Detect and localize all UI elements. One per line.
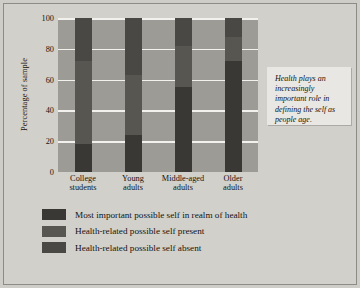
- x-axis-label: Olderadults: [208, 174, 258, 192]
- chart-legend: Most important possible self in realm of…: [42, 209, 342, 259]
- y-axis-title: Percentage of sample: [16, 14, 32, 174]
- x-axis-label-line: Older: [208, 174, 258, 183]
- legend-item[interactable]: Most important possible self in realm of…: [42, 209, 342, 220]
- y-axis-tick-label: 40: [46, 106, 54, 115]
- x-axis-label: Collegestudents: [58, 174, 108, 192]
- stacked-bar[interactable]: [225, 18, 242, 172]
- bar-segment: [125, 135, 142, 172]
- plot-area: [58, 18, 258, 172]
- y-axis-title-text: Percentage of sample: [20, 58, 29, 131]
- bar-segment: [175, 46, 192, 88]
- pull-quote: Health plays an increasingly important r…: [267, 67, 351, 125]
- figure-page: Percentage of sample 100806040200 Colleg…: [0, 0, 360, 288]
- y-axis-tick-label: 20: [46, 137, 54, 146]
- bar-group: [58, 18, 258, 172]
- stacked-bar[interactable]: [75, 18, 92, 172]
- bar-slot: [208, 18, 258, 172]
- y-axis-tick-label: 100: [42, 14, 54, 23]
- x-axis-label-line: students: [58, 183, 108, 192]
- bar-slot: [108, 18, 158, 172]
- x-axis-label-line: adults: [158, 183, 208, 192]
- stacked-bar[interactable]: [125, 18, 142, 172]
- bar-slot: [158, 18, 208, 172]
- bar-segment: [75, 61, 92, 144]
- stacked-bar[interactable]: [175, 18, 192, 172]
- legend-item[interactable]: Health-related possible self absent: [42, 242, 342, 253]
- x-axis-label-line: adults: [208, 183, 258, 192]
- y-axis-tick-label: 60: [46, 75, 54, 84]
- figure-frame: Percentage of sample 100806040200 Colleg…: [3, 3, 357, 285]
- x-axis-labels: CollegestudentsYoungadultsMiddle-agedadu…: [58, 174, 258, 198]
- x-axis-label-line: Middle-aged: [158, 174, 208, 183]
- bar-segment: [125, 75, 142, 135]
- bar-segment: [225, 18, 242, 36]
- bar-segment: [125, 18, 142, 75]
- bar-segment: [75, 18, 92, 61]
- legend-swatch: [42, 209, 66, 220]
- legend-label: Health-related possible self absent: [75, 243, 201, 253]
- legend-swatch: [42, 242, 66, 253]
- x-axis-label-line: Young: [108, 174, 158, 183]
- legend-swatch: [42, 226, 66, 237]
- x-axis-label-line: adults: [108, 183, 158, 192]
- y-axis-ticks: 100806040200: [32, 18, 56, 172]
- pull-quote-text: Health plays an increasingly important r…: [275, 74, 335, 124]
- bar-segment: [175, 87, 192, 172]
- x-axis-label: Middle-agedadults: [158, 174, 208, 192]
- legend-label: Most important possible self in realm of…: [75, 210, 247, 220]
- bar-segment: [75, 144, 92, 172]
- x-axis-label: Youngadults: [108, 174, 158, 192]
- bar-segment: [225, 37, 242, 62]
- bar-segment: [225, 61, 242, 172]
- y-axis-tick-label: 0: [50, 168, 54, 177]
- stacked-bar-chart: Percentage of sample 100806040200 Colleg…: [14, 14, 264, 196]
- y-axis-tick-label: 80: [46, 44, 54, 53]
- bar-slot: [58, 18, 108, 172]
- bar-segment: [175, 18, 192, 46]
- legend-item[interactable]: Health-related possible self present: [42, 226, 342, 237]
- x-axis-label-line: College: [58, 174, 108, 183]
- legend-label: Health-related possible self present: [75, 226, 204, 236]
